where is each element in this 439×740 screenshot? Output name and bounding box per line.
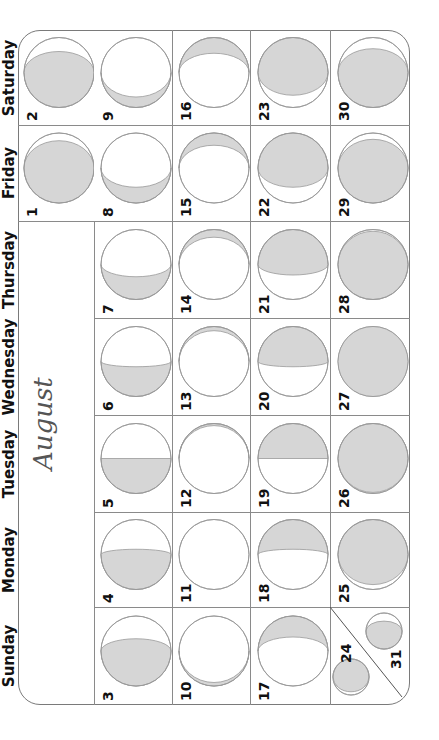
day-header-saturday: Saturday — [0, 30, 18, 125]
day-number: 18 — [256, 584, 272, 603]
day-cell-25[interactable]: 25 — [330, 512, 410, 607]
day-number: 20 — [256, 392, 272, 411]
day-cell-10[interactable]: 10 — [172, 607, 250, 705]
day-number: 15 — [178, 198, 194, 217]
day-cell-8[interactable]: 8 — [94, 125, 172, 221]
day-number: 29 — [336, 198, 352, 217]
day-cell-24-31[interactable]: 2431 — [330, 607, 410, 705]
day-cell-18[interactable]: 18 — [250, 512, 330, 607]
day-cell-3[interactable]: 3 — [94, 607, 172, 705]
day-number: 27 — [336, 392, 352, 411]
day-number: 4 — [100, 593, 116, 603]
day-number-24: 24 — [338, 644, 354, 663]
day-number: 28 — [336, 295, 352, 314]
day-cell-6[interactable]: 6 — [94, 318, 172, 415]
day-cell-16[interactable]: 16 — [172, 30, 250, 125]
day-number: 11 — [178, 584, 194, 603]
day-number: 3 — [100, 691, 116, 701]
day-number: 7 — [100, 304, 116, 314]
day-number: 16 — [178, 102, 194, 121]
day-cell-9[interactable]: 9 — [94, 30, 172, 125]
day-number: 14 — [178, 295, 194, 314]
day-number: 6 — [100, 401, 116, 411]
day-number: 10 — [178, 682, 194, 701]
day-cell-27[interactable]: 27 — [330, 318, 410, 415]
day-cell-1[interactable]: 1 — [18, 125, 94, 221]
day-cell-19[interactable]: 19 — [250, 415, 330, 512]
day-number: 30 — [336, 102, 352, 121]
day-cell-28[interactable]: 28 — [330, 221, 410, 318]
day-cell-20[interactable]: 20 — [250, 318, 330, 415]
day-number: 21 — [256, 295, 272, 314]
day-cell-5[interactable]: 5 — [94, 415, 172, 512]
day-header-thursday: Thursday — [0, 221, 18, 318]
day-number: 2 — [24, 111, 40, 121]
day-cell-26[interactable]: 26 — [330, 415, 410, 512]
day-cell-23[interactable]: 23 — [250, 30, 330, 125]
day-cell-11[interactable]: 11 — [172, 512, 250, 607]
day-cell-12[interactable]: 12 — [172, 415, 250, 512]
day-cell-29[interactable]: 29 — [330, 125, 410, 221]
day-number: 12 — [178, 489, 194, 508]
day-header-sunday: Sunday — [0, 607, 18, 705]
day-number: 9 — [100, 111, 116, 121]
day-number: 17 — [256, 682, 272, 701]
day-number: 22 — [256, 198, 272, 217]
day-cell-17[interactable]: 17 — [250, 607, 330, 705]
day-cell-22[interactable]: 22 — [250, 125, 330, 221]
month-title: August — [28, 377, 58, 470]
day-cell-7[interactable]: 7 — [94, 221, 172, 318]
day-number: 13 — [178, 392, 194, 411]
day-cell-2[interactable]: 2 — [18, 30, 94, 125]
day-cell-14[interactable]: 14 — [172, 221, 250, 318]
day-header-monday: Monday — [0, 512, 18, 607]
day-number: 8 — [100, 207, 116, 217]
day-cell-30[interactable]: 30 — [330, 30, 410, 125]
day-number: 19 — [256, 489, 272, 508]
day-number-31: 31 — [388, 650, 404, 669]
day-cell-4[interactable]: 4 — [94, 512, 172, 607]
day-number: 26 — [336, 489, 352, 508]
day-header-tuesday: Tuesday — [0, 415, 18, 512]
day-cell-13[interactable]: 13 — [172, 318, 250, 415]
day-number: 25 — [336, 584, 352, 603]
day-cell-15[interactable]: 15 — [172, 125, 250, 221]
day-cell-21[interactable]: 21 — [250, 221, 330, 318]
day-number: 23 — [256, 102, 272, 121]
day-number: 5 — [100, 498, 116, 508]
day-header-wednesday: Wednesday — [0, 318, 18, 415]
day-number: 1 — [24, 207, 40, 217]
day-header-friday: Friday — [0, 125, 18, 221]
